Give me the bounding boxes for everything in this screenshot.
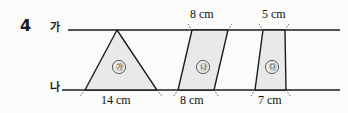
dimension-bottom-ga: 14 cm bbox=[101, 94, 131, 106]
marker-label-ga: ㉮ bbox=[116, 63, 124, 72]
marker-label-na: ㉯ bbox=[200, 63, 208, 72]
dim-ticks-top-da bbox=[259, 24, 289, 30]
dimension-top-da: 5 cm bbox=[262, 8, 286, 20]
marker-label-da: ㉰ bbox=[269, 63, 277, 72]
dimension-bottom-da: 7 cm bbox=[258, 94, 282, 106]
dim-ticks-top-na bbox=[188, 24, 232, 30]
figure-panel: 4 가 나 ㉮ ㉯ ㉰ 8 cm 5 cm 14 cm 8 cm 7 cm bbox=[0, 0, 348, 113]
geometry-drawing: ㉮ ㉯ ㉰ bbox=[0, 0, 348, 113]
shape-trapezoid-da bbox=[255, 30, 286, 90]
dimension-bottom-na: 8 cm bbox=[180, 94, 204, 106]
dimension-top-na: 8 cm bbox=[190, 8, 214, 20]
shape-triangle-ga bbox=[85, 30, 157, 90]
